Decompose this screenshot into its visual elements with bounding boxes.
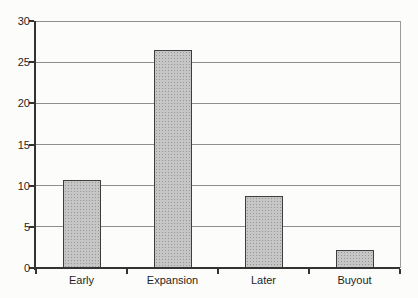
y-tick-label-25: 25	[0, 55, 30, 69]
plot-border-right	[400, 21, 401, 268]
gridline-15	[36, 144, 400, 145]
x-tick-label-expansion: Expansion	[128, 274, 218, 287]
bar-buyout	[336, 250, 374, 268]
bar-chart-figure: 051015202530EarlyExpansionLaterBuyout	[0, 0, 418, 298]
x-tick-label-buyout: Buyout	[310, 274, 400, 287]
bar-early	[63, 180, 101, 268]
y-tick-label-20: 20	[0, 96, 30, 110]
y-tick-label-5: 5	[0, 220, 30, 234]
x-tick-label-later: Later	[219, 274, 309, 287]
x-tick-label-early: Early	[37, 274, 127, 287]
gridline-25	[36, 62, 400, 63]
gridline-20	[36, 103, 400, 104]
y-tick-label-0: 0	[0, 261, 30, 275]
y-tick-label-15: 15	[0, 138, 30, 152]
bar-later	[245, 196, 283, 269]
y-axis-line	[34, 21, 36, 270]
y-tick-label-10: 10	[0, 179, 30, 193]
y-tick-label-30: 30	[0, 14, 30, 28]
gridline-30	[36, 21, 400, 22]
bar-expansion	[154, 50, 192, 268]
